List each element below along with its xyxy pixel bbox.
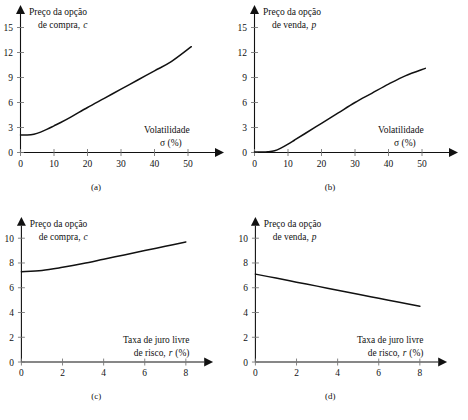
- x-tick-label: 50: [183, 159, 193, 169]
- x-tick-label: 0: [18, 159, 23, 169]
- y-axis-title-line1: Preço da opção: [30, 219, 88, 229]
- panel-d-plot: 0 2 4 6 8 10 0 2 4 6 8 Preço da opção de…: [234, 208, 468, 418]
- y-axis-title-line1: Preço da opção: [29, 7, 87, 17]
- y-axis-title-line2: de venda,p: [273, 232, 317, 242]
- x-tick-label: 6: [142, 368, 147, 378]
- x-axis-arrowhead: [204, 358, 213, 367]
- y-tick-label: 15: [4, 23, 14, 33]
- y-tick-label: 15: [238, 23, 248, 33]
- series-curve: [21, 242, 185, 272]
- y-axis-title-line2: de compra,c: [39, 232, 89, 242]
- x-tick-label: 6: [376, 368, 381, 378]
- y-axis-arrowhead: [251, 217, 260, 226]
- y-tick-label: 9: [242, 73, 247, 83]
- series-curve: [255, 274, 419, 306]
- y-tick-label: 0: [242, 148, 247, 158]
- y-tick-label: 12: [4, 48, 14, 58]
- x-tick-label: 30: [350, 159, 360, 169]
- x-tick-label: 8: [417, 368, 422, 378]
- x-tick-label: 40: [150, 159, 160, 169]
- y-tick-label: 4: [9, 308, 14, 318]
- y-tick-label: 10: [5, 234, 15, 244]
- y-tick-label: 2: [9, 333, 14, 343]
- panel-caption: (b): [325, 182, 336, 192]
- panel-d: 0 2 4 6 8 10 0 2 4 6 8 Preço da opção de…: [234, 208, 468, 418]
- x-tick-label: 10: [283, 159, 293, 169]
- y-tick-label: 6: [9, 283, 14, 293]
- x-tick-label: 30: [116, 159, 126, 169]
- y-axis-title-line2: de compra,c: [38, 20, 88, 30]
- x-tick-label: 2: [294, 368, 299, 378]
- panel-a: 0 3 6 9 12 15 0 10 20 30 40 50 Preço da …: [0, 0, 234, 210]
- x-tick-label: 20: [317, 159, 327, 169]
- x-axis-title-line1: Taxa de juro livre: [357, 335, 423, 345]
- x-tick-label: 20: [83, 159, 93, 169]
- x-tick-label: 10: [49, 159, 59, 169]
- y-tick-label: 3: [8, 123, 13, 133]
- figure-grid: 0 3 6 9 12 15 0 10 20 30 40 50 Preço da …: [0, 0, 468, 420]
- x-tick-label: 40: [384, 159, 394, 169]
- x-axis-title-line1: Taxa de juro livre: [123, 335, 189, 345]
- y-axis-title-line1: Preço da opção: [264, 219, 322, 229]
- x-axis-title-line2: de risco,r(%): [134, 348, 190, 359]
- y-tick-label: 0: [243, 358, 248, 368]
- y-axis-title-line1: Preço da opção: [263, 7, 321, 17]
- y-axis-arrowhead: [16, 5, 25, 14]
- x-axis-title-line1: Volatilidade: [144, 125, 190, 135]
- y-tick-label: 4: [243, 308, 248, 318]
- x-tick-label: 50: [417, 159, 427, 169]
- x-tick-label: 4: [101, 368, 106, 378]
- panel-a-plot: 0 3 6 9 12 15 0 10 20 30 40 50 Preço da …: [0, 0, 234, 210]
- panel-caption: (d): [325, 391, 335, 401]
- x-tick-label: 0: [252, 159, 257, 169]
- y-axis-arrowhead: [17, 217, 26, 226]
- panel-b: 0 3 6 9 12 15 0 10 20 30 40 50 Preço da …: [234, 0, 468, 210]
- y-axis-title-line2: de venda,p: [272, 20, 316, 30]
- x-tick-label: 4: [335, 368, 340, 378]
- panel-caption: (a): [91, 182, 101, 192]
- y-tick-label: 2: [243, 333, 248, 343]
- y-tick-label: 8: [9, 258, 14, 268]
- x-tick-label: 0: [19, 368, 24, 378]
- y-axis-arrowhead: [250, 5, 259, 14]
- y-tick-label: 12: [238, 48, 248, 58]
- x-tick-label: 0: [253, 368, 258, 378]
- panel-b-plot: 0 3 6 9 12 15 0 10 20 30 40 50 Preço da …: [234, 0, 468, 210]
- x-axis-arrowhead: [438, 358, 447, 367]
- y-tick-label: 0: [9, 358, 14, 368]
- y-tick-label: 8: [243, 258, 248, 268]
- y-tick-label: 6: [243, 283, 248, 293]
- x-axis-title-line2: de risco,r(%): [368, 348, 424, 359]
- y-tick-label: 3: [242, 123, 247, 133]
- panel-c-plot: 0 2 4 6 8 10 0 2 4 6 8 Preço da opção de…: [0, 208, 234, 418]
- panel-caption: (c): [91, 391, 101, 401]
- y-tick-label: 9: [8, 73, 13, 83]
- x-axis-title-line2: σ (%): [394, 138, 416, 149]
- x-axis-title-line1: Volatilidade: [378, 125, 424, 135]
- x-tick-label: 2: [60, 368, 65, 378]
- x-axis-arrowhead: [449, 148, 458, 157]
- y-tick-label: 6: [242, 98, 247, 108]
- x-axis-arrowhead: [215, 148, 224, 157]
- y-tick-label: 6: [8, 98, 13, 108]
- y-tick-label: 10: [239, 234, 249, 244]
- series-curve: [21, 47, 192, 135]
- panel-c: 0 2 4 6 8 10 0 2 4 6 8 Preço da opção de…: [0, 208, 234, 418]
- y-tick-label: 0: [8, 148, 13, 158]
- x-tick-label: 8: [183, 368, 188, 378]
- x-axis-title-line2: σ (%): [160, 138, 182, 149]
